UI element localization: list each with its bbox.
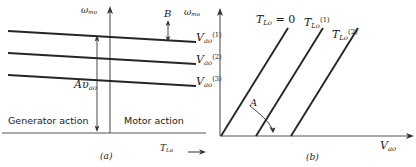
curve-0-subscript: Lo: [263, 19, 272, 27]
curve-3-symbol: V: [196, 75, 204, 88]
figure-root: ωmo B Aυao Vao(1) Vao(2) Vao(3) Generato…: [0, 0, 416, 167]
annotation-a-arrowhead: [269, 127, 276, 134]
panel-a: ωmo B Aυao Vao(1) Vao(2) Vao(3) Generato…: [0, 0, 208, 167]
x-axis-symbol: V: [380, 139, 388, 152]
curve-v-ao-2: [8, 53, 196, 64]
x-axis-subscript: ao: [388, 145, 396, 153]
curve-v-ao-3: [8, 75, 196, 86]
annotation-av-subscript: ao: [89, 84, 97, 92]
curve-label-t-lo-2: TLo(2): [332, 29, 358, 42]
curve-2-symbol: V: [196, 53, 204, 66]
annotation-av-ao-label: Aυao: [74, 79, 97, 92]
panel-a-y-axis-label: ωmo: [81, 6, 97, 16]
x-axis-subscript: Lo: [166, 147, 173, 153]
curve-label-t-lo-0: TLo = 0: [256, 14, 295, 27]
panel-a-graphic: [0, 0, 208, 167]
region-label-generator-action: Generator action: [8, 116, 89, 126]
panel-b-x-axis-label: Vao: [380, 140, 396, 153]
panel-b: ωmo TLo = 0 TLo(1) TLo(2) A Vao (b): [208, 0, 416, 167]
curve-1-superscript: (1): [320, 16, 330, 24]
panel-b-y-axis-label: ωmo: [184, 8, 200, 18]
panel-a-caption: (a): [100, 152, 112, 161]
annotation-av-symbol: Aυ: [74, 78, 89, 91]
curve-2-subscript: Lo: [339, 34, 348, 42]
curve-1-symbol: V: [196, 31, 204, 44]
curve-1-subscript: Lo: [311, 22, 320, 30]
panel-a-x-axis-label: TLo: [160, 144, 173, 154]
region-label-motor-action: Motor action: [124, 116, 184, 126]
annotation-a-label: A: [250, 98, 257, 108]
curve-label-t-lo-1: TLo(1): [304, 17, 330, 30]
curve-0-suffix: = 0: [272, 13, 295, 26]
curve-2-superscript: (2): [348, 28, 358, 36]
curve-t-lo-0: [221, 28, 288, 136]
y-axis-subscript: mo: [88, 9, 97, 15]
curve-t-lo-2: [291, 28, 358, 136]
y-axis-subscript: mo: [191, 11, 200, 17]
panel-b-caption: (b): [306, 153, 319, 162]
annotation-b-label: B: [164, 9, 171, 19]
